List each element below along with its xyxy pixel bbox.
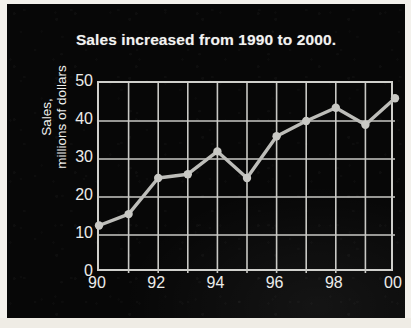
data-point-marker <box>154 174 162 182</box>
plot-area <box>97 81 393 271</box>
y-axis-tick-labels: 01020304050 <box>55 81 93 271</box>
data-point-marker <box>302 117 310 125</box>
data-point-marker <box>124 210 132 218</box>
x-axis-tick-label: 98 <box>314 274 354 292</box>
chart-figure-panel: Sales increased from 1990 to 2000. Sales… <box>7 4 405 318</box>
x-axis-tick-label: 94 <box>195 274 235 292</box>
paper-margin-strip <box>0 318 411 328</box>
y-axis-tick-label: 30 <box>59 149 93 165</box>
y-axis-tick-label: 10 <box>59 225 93 241</box>
data-point-marker <box>184 170 192 178</box>
x-axis-tick-label: 92 <box>136 274 176 292</box>
x-axis-tick-label: 96 <box>255 274 295 292</box>
screenshot-canvas: Sales increased from 1990 to 2000. Sales… <box>0 0 411 328</box>
data-point-marker <box>272 132 280 140</box>
sales-trend-line <box>99 98 395 225</box>
x-axis-tick-labels: 909294969800 <box>97 274 393 298</box>
data-point-marker <box>361 121 369 129</box>
y-axis-tick-label: 20 <box>59 187 93 203</box>
data-point-marker <box>391 94 399 102</box>
y-axis-tick-label: 50 <box>59 73 93 89</box>
data-point-marker <box>95 221 103 229</box>
x-axis-tick-label: 00 <box>373 274 405 292</box>
y-axis-tick-label: 40 <box>59 111 93 127</box>
y-axis-title-line-1: Sales, <box>39 98 55 136</box>
data-point-marker <box>243 174 251 182</box>
data-point-marker <box>332 104 340 112</box>
data-point-marker <box>213 147 221 155</box>
sales-line-series <box>99 83 395 273</box>
x-axis-tick-label: 90 <box>77 274 117 292</box>
